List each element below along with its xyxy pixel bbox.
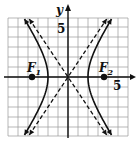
asymptote-arrow-icon	[102, 129, 107, 135]
focus1-label: F1	[26, 61, 41, 77]
asymptote-arrow-icon	[29, 129, 34, 135]
hyperbola-chart: y 5 5 F1 F2	[0, 0, 137, 141]
asymptote-arrow-icon	[29, 19, 34, 25]
x-axis-arrow-icon	[130, 74, 136, 80]
y-axis-label: y	[55, 3, 64, 17]
axes	[4, 4, 136, 138]
x-tick-label-5: 5	[113, 79, 121, 93]
y-tick-label-5: 5	[57, 22, 65, 36]
asymptote-arrow-icon	[102, 19, 107, 25]
y-axis-arrow-icon	[65, 4, 71, 11]
focus2-label: F2	[98, 61, 114, 77]
